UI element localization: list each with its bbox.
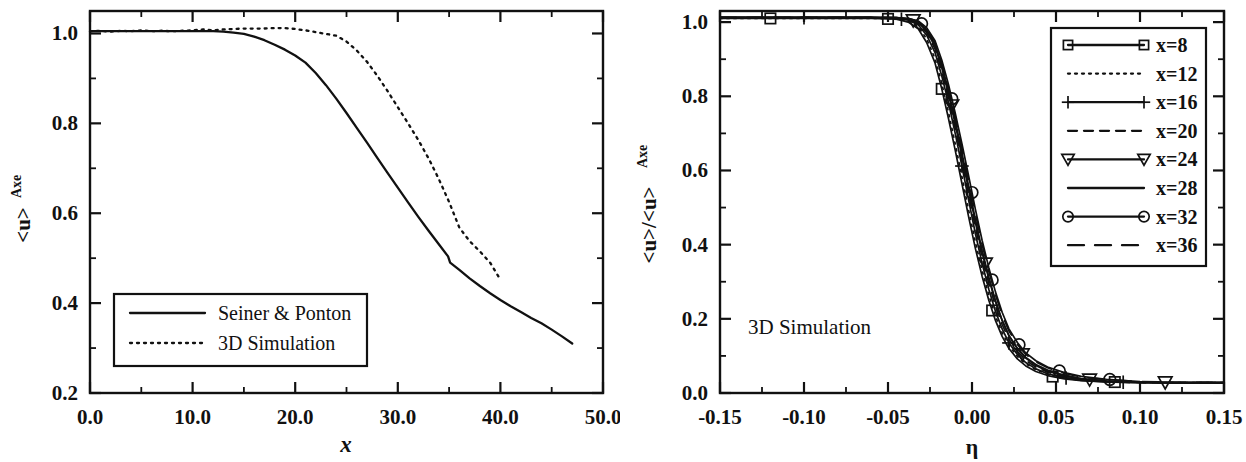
x-tick-label: 30.0 bbox=[379, 405, 416, 429]
right-legend-label-2: x=16 bbox=[1156, 91, 1197, 113]
x-tick-label: 10.0 bbox=[174, 405, 211, 429]
right-legend-label-5: x=28 bbox=[1156, 177, 1197, 199]
x-tick-label: -0.15 bbox=[698, 405, 742, 429]
figure-two-panel-plot: 0.010.020.030.040.050.00.20.40.60.81.0 <… bbox=[0, 0, 1246, 462]
y-tick-label: 0.6 bbox=[682, 158, 708, 182]
y-tick-label: 0.4 bbox=[682, 233, 709, 257]
left-y-axis-title-sub: Axe bbox=[9, 175, 24, 198]
x-tick-label: 0.15 bbox=[1206, 405, 1243, 429]
x-tick-label: 0.0 bbox=[77, 405, 103, 429]
right-legend-label-0: x=8 bbox=[1156, 34, 1187, 56]
right-y-axis-title: <u>/<u> Axe bbox=[635, 145, 661, 264]
right-legend-label-6: x=32 bbox=[1156, 206, 1197, 228]
left-axis-tick-labels: 0.010.020.030.040.050.00.20.40.60.81.0 bbox=[52, 21, 620, 429]
left-legend-label-0: Seiner & Ponton bbox=[218, 302, 351, 324]
y-tick-label: 0.0 bbox=[682, 381, 708, 405]
left-plot-svg: 0.010.020.030.040.050.00.20.40.60.81.0 <… bbox=[0, 0, 620, 462]
x-tick-label: 0.00 bbox=[954, 405, 991, 429]
left-legend-label-1: 3D Simulation bbox=[218, 332, 335, 354]
right-plot-annotation: 3D Simulation bbox=[748, 315, 872, 339]
x-tick-label: 40.0 bbox=[482, 405, 519, 429]
x-tick-label: 0.10 bbox=[1122, 405, 1159, 429]
right-y-axis-title-main: <u>/<u> bbox=[637, 186, 661, 263]
x-tick-label: -0.05 bbox=[866, 405, 910, 429]
right-plot-svg: -0.15-0.10-0.050.000.050.100.150.00.20.4… bbox=[620, 0, 1246, 462]
x-tick-label: 0.05 bbox=[1038, 405, 1075, 429]
y-tick-label: 1.0 bbox=[682, 10, 708, 34]
x-tick-label: -0.10 bbox=[782, 405, 826, 429]
x-tick-label: 20.0 bbox=[277, 405, 314, 429]
left-legend: Seiner & Ponton3D Simulation bbox=[114, 294, 367, 366]
y-tick-label: 0.4 bbox=[52, 291, 79, 315]
y-tick-label: 0.6 bbox=[52, 201, 78, 225]
x-tick-label: 50.0 bbox=[585, 405, 620, 429]
panel-right-self-similar-profiles: -0.15-0.10-0.050.000.050.100.150.00.20.4… bbox=[620, 0, 1246, 462]
y-tick-label: 0.2 bbox=[52, 381, 78, 405]
y-tick-label: 0.2 bbox=[682, 307, 708, 331]
right-legend-label-4: x=24 bbox=[1156, 148, 1197, 170]
y-tick-label: 0.8 bbox=[682, 84, 708, 108]
right-legend: x=8x=12x=16x=20x=24x=28x=32x=36 bbox=[1051, 28, 1206, 266]
left-y-axis-title-main: <u> bbox=[11, 207, 35, 243]
left-x-axis-title: x bbox=[339, 432, 352, 457]
y-tick-label: 0.8 bbox=[52, 111, 78, 135]
right-legend-label-3: x=20 bbox=[1156, 120, 1197, 142]
y-tick-label: 1.0 bbox=[52, 21, 78, 45]
right-legend-label-1: x=12 bbox=[1156, 63, 1197, 85]
right-x-axis-title: η bbox=[966, 434, 979, 459]
panel-left-centerline-velocity: 0.010.020.030.040.050.00.20.40.60.81.0 <… bbox=[0, 0, 620, 462]
series-line-3d-simulation bbox=[90, 28, 500, 280]
right-y-axis-title-sub: Axe bbox=[635, 145, 650, 168]
left-y-axis-title: <u> Axe bbox=[9, 175, 35, 243]
right-legend-label-7: x=36 bbox=[1156, 234, 1197, 256]
